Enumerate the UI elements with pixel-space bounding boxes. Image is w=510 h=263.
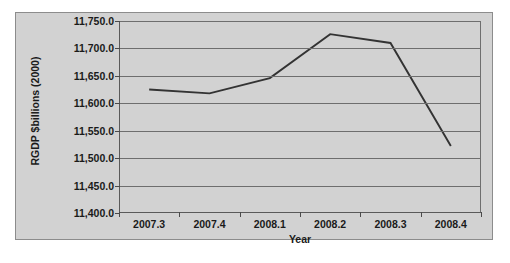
y-axis-tick [115,103,120,104]
x-axis-tick-label: 2007.4 [193,218,225,230]
y-axis-tick-label: 11,600.0 [38,97,114,109]
grid-line [119,21,481,22]
x-axis-tick-label: 2007.3 [133,218,165,230]
grid-line [119,158,481,159]
y-axis-tick-label: 11,650.0 [38,70,114,82]
data-series-line [119,21,481,213]
chart-frame: RGDP $billions (2000) 11,400.011,450.011… [15,12,493,240]
grid-line [119,76,481,77]
y-axis-tick [115,186,120,187]
x-axis-title: Year [119,233,481,245]
y-axis-tick [115,131,120,132]
y-axis-tick [115,76,120,77]
y-axis-tick-label: 11,700.0 [38,42,114,54]
grid-line [119,103,481,104]
x-axis-tick-label: 2008.3 [374,218,406,230]
x-axis-tick-label: 2008.2 [314,218,346,230]
chart-screenshot: RGDP $billions (2000) 11,400.011,450.011… [0,0,510,263]
y-axis-tick-label: 11,550.0 [38,125,114,137]
x-axis-tick-label: 2008.4 [435,218,467,230]
y-axis-tick-labels: 11,400.011,450.011,500.011,550.011,600.0… [38,21,114,213]
y-axis-tick-label: 11,450.0 [38,180,114,192]
plot-area [119,21,481,213]
grid-line [119,186,481,187]
y-axis-tick-label: 11,750.0 [38,15,114,27]
y-axis-tick-label: 11,400.0 [38,207,114,219]
y-axis-tick [115,21,120,22]
y-axis-tick [115,158,120,159]
x-axis-tick-label: 2008.1 [254,218,286,230]
x-axis-tick [481,212,482,217]
grid-line [119,48,481,49]
x-axis-tick-labels: 2007.32007.42008.12008.22008.32008.4 [119,217,481,233]
y-axis-tick-label: 11,500.0 [38,152,114,164]
grid-line [119,131,481,132]
y-axis-tick [115,48,120,49]
